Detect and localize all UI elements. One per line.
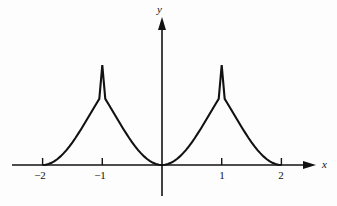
x-tick-label-2: 2 — [271, 170, 291, 181]
x-tick-label--1: −1 — [88, 170, 112, 181]
x-tick-label-1: 1 — [212, 170, 232, 181]
x-axis-label: x — [322, 159, 327, 170]
y-axis-label: y — [157, 4, 162, 15]
figure-container: −2 −1 1 2 x y — [0, 0, 337, 206]
x-axis-arrow-icon — [303, 161, 316, 169]
y-axis-arrow-icon — [158, 17, 166, 30]
x-tick-label--2: −2 — [28, 170, 52, 181]
